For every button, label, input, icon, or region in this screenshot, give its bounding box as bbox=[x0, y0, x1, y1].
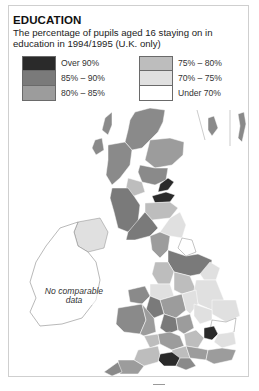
map-title: EDUCATION bbox=[13, 14, 81, 26]
region-kent bbox=[206, 348, 236, 364]
region-warwickshire bbox=[176, 314, 194, 334]
legend-swatch bbox=[22, 71, 56, 86]
region-tyne bbox=[178, 238, 196, 256]
no-data-label: No comparable data bbox=[40, 287, 108, 305]
legend-swatch bbox=[22, 56, 56, 71]
region-oxford bbox=[184, 330, 204, 348]
region-shetland bbox=[238, 112, 246, 142]
inset-divider bbox=[197, 110, 205, 140]
legend-item-over-90: Over 90% bbox=[22, 56, 132, 71]
legend-swatch bbox=[139, 86, 173, 101]
legend-right: 75% – 80% 70% – 75% Under 70% bbox=[139, 56, 249, 101]
region-cumbria bbox=[150, 232, 170, 258]
legend-left: Over 90% 85% – 90% 80% – 85% bbox=[22, 56, 132, 101]
legend-label: 75% – 80% bbox=[178, 58, 222, 68]
legend-item-80-85: 80% – 85% bbox=[22, 86, 132, 101]
region-skye bbox=[92, 138, 104, 155]
map-subtitle: The percentage of pupils aged 16 staying… bbox=[13, 28, 233, 49]
legend-swatch bbox=[139, 71, 173, 86]
region-gloucester bbox=[158, 332, 184, 350]
legend-item-70-75: 70% – 75% bbox=[139, 71, 249, 86]
region-hampshire bbox=[176, 358, 196, 370]
legend-label: 80% – 85% bbox=[61, 88, 105, 98]
legend-item-85-90: 85% – 90% bbox=[22, 71, 132, 86]
region-orkney bbox=[208, 116, 218, 136]
region-grampian bbox=[145, 138, 184, 168]
region-dyfed bbox=[116, 304, 146, 334]
legend-label: Under 70% bbox=[178, 88, 221, 98]
region-west-coast bbox=[102, 112, 112, 135]
region-gwynedd bbox=[128, 286, 150, 304]
legend-item-under-70: Under 70% bbox=[139, 86, 249, 101]
legend-item-75-80: 75% – 80% bbox=[139, 56, 249, 71]
region-lothian bbox=[152, 192, 175, 203]
legend-swatch bbox=[139, 56, 173, 71]
uk-choropleth-map bbox=[9, 104, 248, 376]
page-tab-mark bbox=[153, 384, 165, 389]
legend-label: 85% – 90% bbox=[61, 73, 105, 83]
legend-swatch bbox=[22, 86, 56, 101]
legend-label: Over 90% bbox=[61, 58, 99, 68]
legend-label: 70% – 75% bbox=[178, 73, 222, 83]
